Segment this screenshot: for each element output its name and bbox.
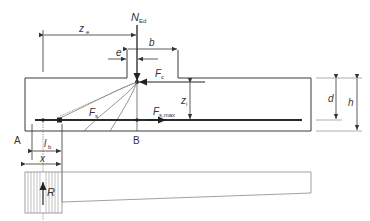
svg-text:l: l: [44, 138, 47, 149]
column-outline: [127, 50, 178, 78]
label-point-a: A: [14, 135, 21, 146]
compression-force-fc: [135, 80, 205, 84]
strut-and-tie-diagram: N Ed z e b e F c z i: [0, 0, 370, 221]
compression-struts: [60, 82, 137, 131]
svg-text:e: e: [86, 29, 90, 35]
dimension-ze: [43, 30, 136, 72]
svg-text:Ed: Ed: [139, 18, 146, 24]
svg-text:x: x: [39, 153, 46, 164]
tie-rebar: [35, 118, 302, 123]
label-e: e: [116, 47, 122, 58]
svg-text:b: b: [48, 144, 52, 150]
dimension-arrows-dh: [336, 79, 357, 130]
label-reaction-r: R: [47, 186, 55, 198]
svg-text:s: s: [95, 113, 98, 119]
svg-text:s,max: s,max: [159, 112, 175, 118]
svg-text:N: N: [131, 11, 139, 23]
beam-outline: [25, 78, 311, 131]
svg-text:c: c: [161, 74, 164, 80]
dimension-d-h: [316, 78, 362, 131]
load-arrow-ned: N Ed: [131, 11, 146, 81]
label-ze: z: [78, 23, 84, 34]
support-pressure-diagram: [25, 172, 311, 213]
label-d: d: [328, 93, 334, 104]
svg-text:i: i: [186, 101, 187, 107]
label-point-b: B: [133, 135, 140, 146]
label-h: h: [348, 97, 354, 108]
label-b: b: [149, 37, 155, 48]
